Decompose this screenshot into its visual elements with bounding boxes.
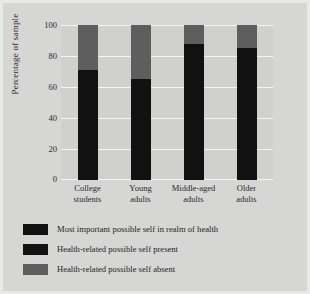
figure-container: Percentage of sample 100 80 60 40 20 0 C… [0,0,310,294]
x-tick-label-college-students: College students [61,183,114,213]
x-label-line1: Middle-aged [167,183,220,194]
bar-segment-present [184,44,204,180]
x-label-line2: adults [167,194,220,205]
bar-segment-absent [184,25,204,44]
bar-segment-present [131,79,151,180]
bar-segment-absent [131,25,151,79]
y-tick-label: 100 [31,20,57,30]
legend-swatch-most-important [23,224,48,235]
x-label-line2: students [61,194,114,205]
legend-label: Most important possible self in realm of… [57,224,218,234]
x-label-line2: adults [220,194,273,205]
legend-swatch-present [23,244,48,255]
x-label-line2: adults [114,194,167,205]
legend-label: Health-related possible self present [57,244,178,254]
legend-swatch-absent [23,264,48,275]
bar-older-adults [237,25,257,180]
bar-college-students [78,25,98,180]
x-axis-labels: College students Young adults Middle-age… [61,183,273,213]
bar-middle-aged-adults [184,25,204,180]
y-tick-label: 20 [31,144,57,154]
y-axis-ticks: 100 80 60 40 20 0 [29,25,57,180]
y-axis-title: Percentage of sample [10,0,20,114]
bar-young-adults [131,25,151,180]
x-tick-label-older-adults: Older adults [220,183,273,213]
legend-label: Health-related possible self absent [57,264,175,274]
legend-item-present: Health-related possible self present [23,239,295,259]
legend: Most important possible self in realm of… [23,219,295,279]
plot-area [61,25,273,180]
bar-segment-present [78,70,98,180]
x-label-line1: College [61,183,114,194]
bar-segment-absent [237,25,257,48]
y-tick-label: 0 [31,174,57,184]
y-tick-label: 40 [31,113,57,123]
x-label-line1: Older [220,183,273,194]
x-label-line1: Young [114,183,167,194]
y-tick-label: 80 [31,51,57,61]
y-tick-label: 60 [31,82,57,92]
bar-segment-absent [78,25,98,70]
x-tick-label-middle-aged-adults: Middle-aged adults [167,183,220,213]
x-tick-label-young-adults: Young adults [114,183,167,213]
legend-item-most-important: Most important possible self in realm of… [23,219,295,239]
legend-item-absent: Health-related possible self absent [23,259,295,279]
bar-segment-present [237,48,257,180]
